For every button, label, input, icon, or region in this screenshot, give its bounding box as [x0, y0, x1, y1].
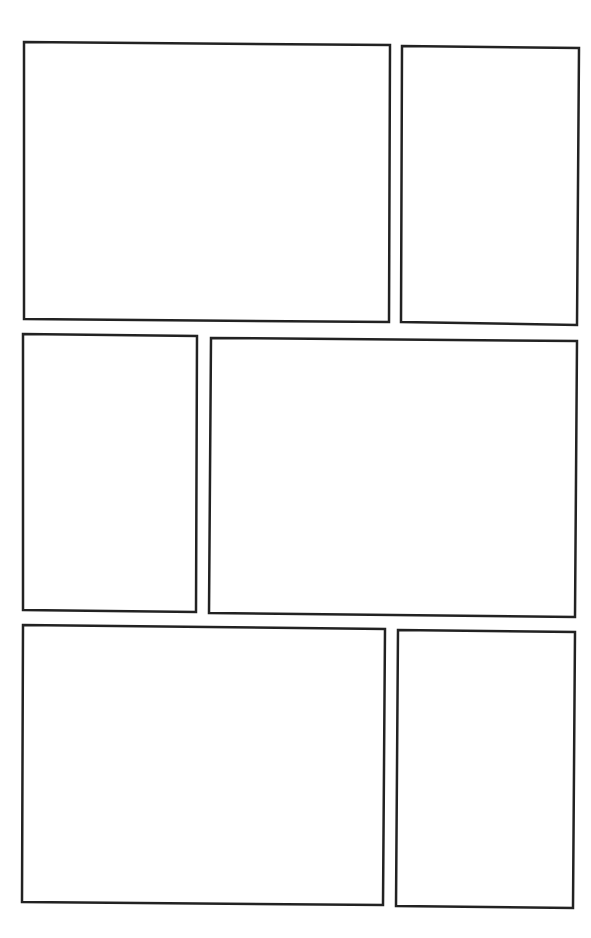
panel-3 — [23, 334, 197, 612]
panel-6 — [396, 630, 575, 908]
panel-1 — [24, 42, 390, 322]
panel-4 — [209, 338, 577, 617]
panel-5 — [22, 625, 385, 905]
panel-2 — [401, 46, 579, 325]
comic-page — [0, 0, 591, 938]
